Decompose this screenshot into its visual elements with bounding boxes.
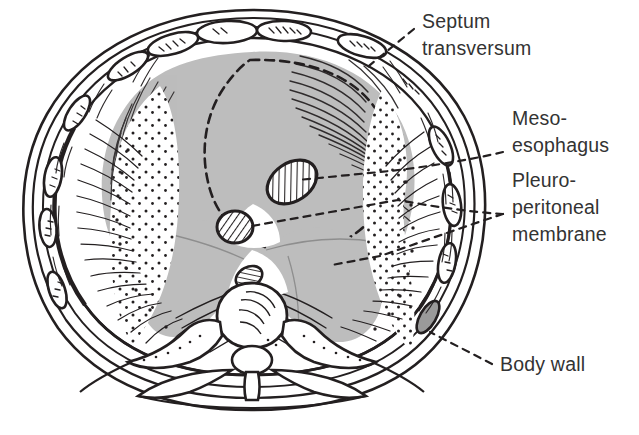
spinal-canal — [232, 346, 272, 374]
label-meso-esophagus-line2: esophagus — [512, 134, 609, 156]
spinous-process — [245, 372, 260, 400]
label-pleuro-line2: peritoneal — [512, 196, 600, 218]
label-body-wall-line1: Body wall — [500, 353, 585, 375]
label-meso-esophagus-line1: Meso- — [512, 107, 567, 129]
anatomical-figure: Septum transversum Meso- esophagus Pleur… — [0, 0, 639, 435]
label-pleuro-line1: Pleuro- — [512, 169, 576, 191]
label-pleuro-line3: membrane — [512, 223, 607, 245]
aorta — [217, 211, 253, 243]
label-septum-transversum-line1: Septum — [422, 10, 490, 32]
label-body-wall: Body wall — [500, 353, 585, 375]
vertebral-body — [217, 283, 287, 348]
label-septum-transversum-line2: transversum — [422, 37, 531, 59]
